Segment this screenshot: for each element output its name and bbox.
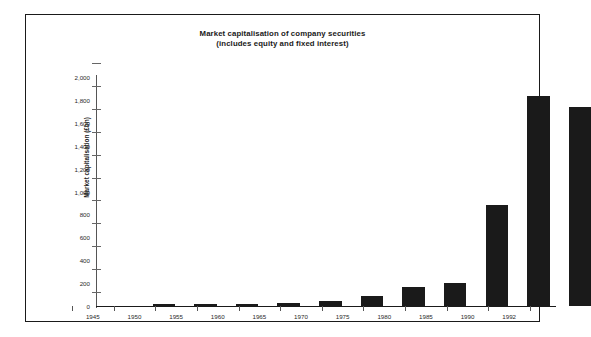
chart-title-block: Market capitalisation of company securit… [26,29,539,48]
x-axis-line [96,306,556,307]
bar [569,107,591,306]
chart-frame: Market capitalisation of company securit… [25,14,540,322]
bar [402,287,424,306]
x-axis-tick-label: 1975 [323,313,363,320]
x-axis-tick [72,306,73,311]
x-axis-tick [114,306,115,311]
y-axis-tick-label: 2,000 [56,74,90,81]
x-axis-tick [280,306,281,311]
x-axis-tick [239,306,240,311]
y-axis-tick-label: 200 [56,280,90,287]
y-axis-labels: 02004006008001,0001,2001,4001,6001,8002,… [54,15,90,337]
x-axis-tick-label: 1970 [281,313,321,320]
x-axis-tick-label: 1955 [156,313,196,320]
y-axis-tick-label: 600 [56,234,90,241]
x-axis-tick-label: 1992 [489,313,529,320]
x-axis-tick-label: 1985 [406,313,446,320]
chart-subtitle: (includes equity and fixed interest) [26,39,539,49]
y-axis-tick [92,269,101,270]
y-axis-tick [92,200,101,201]
x-axis-tick-label: 1980 [364,313,404,320]
x-axis-tick [155,306,156,311]
x-axis-tick-label: 1965 [239,313,279,320]
y-axis-tick [92,109,101,110]
bar [444,283,466,306]
y-axis-tick-label: 1,000 [56,189,90,196]
bar [361,296,383,306]
x-axis-tick [488,306,489,311]
y-axis-tick [92,223,101,224]
bar [486,205,508,306]
bar [527,96,549,306]
x-axis-tick-label: 1990 [448,313,488,320]
plot-area [97,77,555,306]
x-axis-tick [363,306,364,311]
x-axis-tick-label: 1945 [73,313,113,320]
y-axis-tick-label: 1,200 [56,166,90,173]
y-axis-tick [92,132,101,133]
y-axis-tick [92,155,101,156]
y-axis-tick [92,246,101,247]
y-axis-tick-label: 1,600 [56,120,90,127]
x-axis-tick [530,306,531,311]
x-axis-tick-label: 1960 [198,313,238,320]
x-axis-tick [405,306,406,311]
y-axis-tick-label: 0 [56,303,90,310]
x-axis-tick [322,306,323,311]
x-axis-tick [197,306,198,311]
y-axis-tick-label: 400 [56,257,90,264]
x-axis-tick [447,306,448,311]
y-axis-tick-label: 1,800 [56,97,90,104]
y-axis-tick [92,178,101,179]
y-axis-tick-label: 800 [56,211,90,218]
y-axis-tick-label: 1,400 [56,143,90,150]
y-axis-tick [92,63,101,64]
chart-title: Market capitalisation of company securit… [26,29,539,39]
y-axis-tick [92,292,101,293]
x-axis-tick-label: 1950 [114,313,154,320]
y-axis-tick [92,86,101,87]
